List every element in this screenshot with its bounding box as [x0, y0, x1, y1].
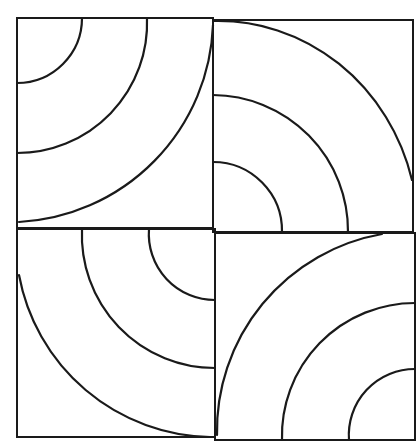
arc-small	[349, 369, 415, 440]
arc-large	[213, 21, 412, 180]
arc-large	[19, 25, 213, 222]
tile-frame	[17, 229, 215, 437]
tile-top-right	[213, 20, 413, 232]
tile-frame	[215, 233, 415, 440]
arc-small	[17, 18, 82, 83]
arc-large	[19, 275, 210, 437]
quarter-circle-pattern	[0, 0, 419, 448]
tile-top-left	[17, 18, 213, 228]
tile-bottom-right	[215, 233, 415, 440]
tile-bottom-left	[17, 229, 215, 437]
arc-small	[213, 162, 282, 232]
arc-small	[149, 229, 215, 300]
arc-medium	[17, 18, 147, 153]
arc-medium	[82, 229, 215, 368]
tile-frame	[213, 20, 413, 232]
